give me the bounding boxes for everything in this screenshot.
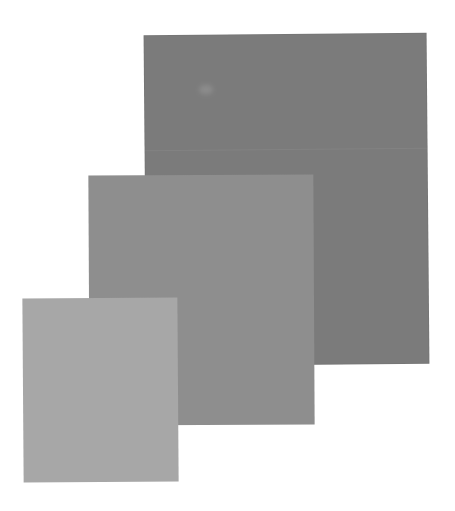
surface-streak xyxy=(145,148,428,151)
small-gray-swatch xyxy=(22,297,178,482)
surface-speck xyxy=(199,85,213,95)
